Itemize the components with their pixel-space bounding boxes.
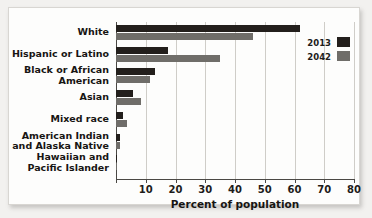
bar-2042 <box>116 98 141 105</box>
bar-2013 <box>116 155 117 162</box>
x-axis-tick-label: 70 <box>309 184 339 195</box>
bar-group: American Indianand Alaska Native <box>116 134 354 156</box>
bar-2013 <box>116 112 123 119</box>
category-label: American Indianand Alaska Native <box>0 131 109 152</box>
category-label-line: White <box>0 27 109 38</box>
category-label-line: Asian <box>0 92 109 103</box>
bar-2013 <box>116 90 133 97</box>
category-label: Black or AfricanAmerican <box>0 65 109 86</box>
bar-group: Black or AfricanAmerican <box>116 68 354 90</box>
x-axis-tick <box>146 179 147 183</box>
x-axis-tick <box>295 179 296 183</box>
category-label-line: Pacific Islander <box>0 163 109 174</box>
x-axis-tick <box>324 179 325 183</box>
x-axis-tick-label: 80 <box>339 184 369 195</box>
x-axis-title: Percent of population <box>116 198 354 210</box>
category-label: Hawaiian andPacific Islander <box>0 152 109 173</box>
category-label: White <box>0 27 109 38</box>
x-axis-tick <box>176 179 177 183</box>
x-axis-tick-label: 30 <box>190 184 220 195</box>
bar-2042 <box>116 33 253 40</box>
legend-label: 2013 <box>305 38 331 48</box>
category-label: Asian <box>0 92 109 103</box>
chart-plate: 1020304050607080 WhiteHispanic or Latino… <box>8 7 360 205</box>
bar-2042 <box>116 76 150 83</box>
legend-swatch <box>337 37 350 47</box>
chart-legend: 20132042 <box>305 37 361 65</box>
bar-2013 <box>116 68 155 75</box>
x-axis-tick <box>265 179 266 183</box>
category-label-line: American <box>0 76 109 87</box>
legend-item: 2042 <box>305 51 361 62</box>
x-axis-tick-label: 40 <box>220 184 250 195</box>
category-label: Mixed race <box>0 114 109 125</box>
x-axis-tick <box>205 179 206 183</box>
x-axis-tick-label: 50 <box>250 184 280 195</box>
category-label-line: Mixed race <box>0 114 109 125</box>
category-label-line: and Alaska Native <box>0 141 109 152</box>
x-axis-tick-label: 10 <box>131 184 161 195</box>
legend-item: 2013 <box>305 37 361 48</box>
x-axis-tick <box>116 179 117 183</box>
legend-label: 2042 <box>305 52 331 62</box>
bar-2042 <box>116 142 120 149</box>
category-label: Hispanic or Latino <box>0 49 109 60</box>
x-axis-tick-label: 60 <box>280 184 310 195</box>
legend-swatch <box>337 51 350 61</box>
category-label-line: Hispanic or Latino <box>0 49 109 60</box>
bar-group: Asian <box>116 90 354 112</box>
bar-2042 <box>116 163 117 170</box>
bar-2013 <box>116 25 300 32</box>
bar-2042 <box>116 55 220 62</box>
bar-2013 <box>116 134 120 141</box>
bar-2013 <box>116 47 168 54</box>
bar-2042 <box>116 120 127 127</box>
x-axis-tick <box>235 179 236 183</box>
x-axis-tick <box>354 179 355 183</box>
x-axis-tick-label: 20 <box>161 184 191 195</box>
bar-group: Mixed race <box>116 112 354 134</box>
chart-figure: 1020304050607080 WhiteHispanic or Latino… <box>0 0 372 218</box>
bar-group: Hawaiian andPacific Islander <box>116 155 354 177</box>
